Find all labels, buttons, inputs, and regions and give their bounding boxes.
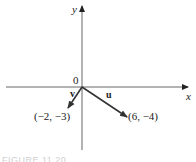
x-axis-label: x — [186, 91, 191, 102]
origin-label: 0 — [73, 75, 79, 86]
y-axis-label: y — [72, 4, 77, 15]
vector-u-endpoint-label: (6, −4) — [128, 111, 158, 122]
vector-v-endpoint-label: (−2, −3) — [34, 111, 70, 122]
vector-u-label: u — [106, 90, 112, 100]
figure-caption: FIGURE 11.20 — [2, 155, 66, 162]
diagram-canvas — [0, 0, 196, 162]
vector-v-label: v — [70, 89, 75, 99]
vector-u-arrow — [82, 87, 127, 117]
vector-diagram: y x 0 v u (−2, −3) (6, −4) FIGURE 11.20 — [0, 0, 196, 162]
